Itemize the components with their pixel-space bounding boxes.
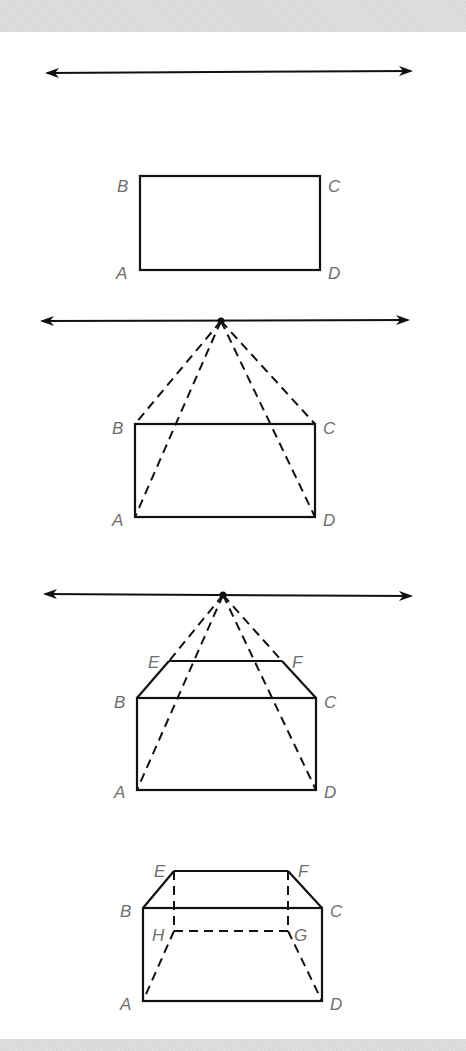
perspective-diagram: B C A D B C A D E F B C A D bbox=[0, 0, 466, 1051]
label-d: D bbox=[323, 511, 335, 530]
label-a: A bbox=[115, 264, 127, 283]
label-f: F bbox=[292, 653, 304, 672]
horizon-line-3 bbox=[45, 594, 411, 596]
rectangle-abcd-3 bbox=[137, 698, 316, 790]
label-g: G bbox=[294, 926, 307, 945]
step-2: B C A D bbox=[42, 318, 408, 531]
rectangle-abcd-2 bbox=[135, 424, 315, 517]
label-b: B bbox=[120, 902, 131, 921]
label-c: C bbox=[324, 693, 337, 712]
label-a: A bbox=[113, 783, 125, 802]
step-3: E F B C A D bbox=[45, 592, 411, 803]
orthogonal-a bbox=[135, 321, 221, 517]
step-1: B C A D bbox=[47, 71, 411, 283]
label-e: E bbox=[148, 653, 160, 672]
label-b: B bbox=[114, 693, 125, 712]
label-d: D bbox=[330, 995, 342, 1014]
step-4: E F B C H G A D bbox=[119, 862, 343, 1014]
label-d: D bbox=[324, 783, 336, 802]
rectangle-abcd-1 bbox=[140, 176, 320, 270]
label-a: A bbox=[111, 511, 123, 530]
label-d: D bbox=[328, 264, 340, 283]
orthogonal-b bbox=[135, 321, 221, 424]
label-a: A bbox=[119, 995, 131, 1014]
rectangle-abcd-4 bbox=[143, 908, 322, 1001]
orthogonal-d bbox=[221, 321, 315, 517]
orthogonal-f bbox=[223, 595, 282, 661]
label-h: H bbox=[152, 926, 165, 945]
label-b: B bbox=[112, 419, 123, 438]
orthogonal-e bbox=[169, 595, 223, 661]
label-e: E bbox=[154, 862, 166, 881]
orthogonal-d bbox=[223, 595, 316, 790]
label-c: C bbox=[330, 902, 343, 921]
label-c: C bbox=[328, 177, 341, 196]
label-c: C bbox=[323, 419, 336, 438]
horizon-line-1 bbox=[47, 71, 411, 73]
orthogonal-a bbox=[137, 595, 223, 790]
label-b: B bbox=[117, 177, 128, 196]
orthogonal-c bbox=[221, 321, 315, 424]
horizon-line-2 bbox=[42, 320, 408, 321]
label-f: F bbox=[298, 862, 310, 881]
